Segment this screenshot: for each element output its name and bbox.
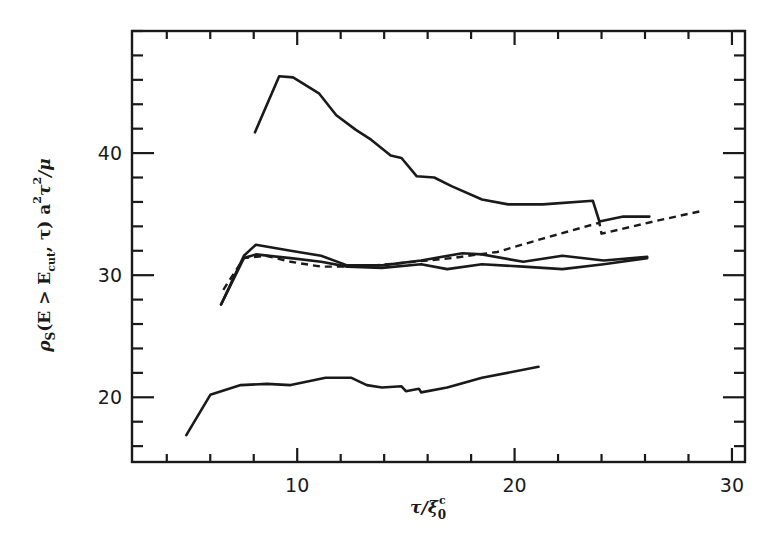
y-axis-label: ρS(E > Ecut, τ) a2τ2/μ [31,158,58,353]
y-tick-label: 30 [98,264,122,286]
line-chart: 102030203040 τ/ξ0c ρS(E > Ecut, τ) a2τ2/… [0,0,773,549]
y-tick-label: 20 [98,386,122,408]
series-curve-bottom [186,367,538,435]
axis-ticks [132,31,745,462]
series-curve-middle-lower [221,254,647,304]
y-tick-label: 40 [98,142,122,164]
x-tick-label: 10 [285,474,309,496]
series-curve-middle-upper [221,245,647,305]
x-tick-label: 30 [720,474,744,496]
x-tick-label: 20 [502,474,526,496]
tick-labels: 102030203040 [98,142,744,496]
plot-frame [132,31,745,462]
series-curve-top [255,76,649,221]
series-group [186,76,703,435]
x-axis-label: τ/ξ0c [410,494,446,522]
series-curve-dashed [223,211,703,290]
